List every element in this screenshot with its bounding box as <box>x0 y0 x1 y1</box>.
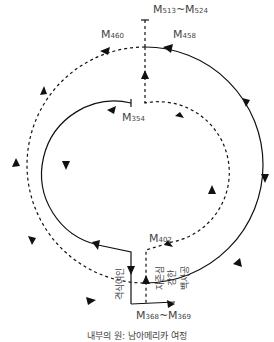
label-m402: M402 <box>149 233 172 244</box>
vertical-text-left: 격식여인 <box>113 268 126 300</box>
outer-right-solid-arc <box>145 47 263 283</box>
journey-diagram <box>0 0 274 342</box>
diagram-caption: 내부의 원: 남아메리카 여정 <box>0 329 274 342</box>
vertical-text-right-3: 백사공 <box>178 266 191 290</box>
vertical-text-right-2: 강한 <box>165 270 178 286</box>
label-m513-m524: M513~M524 <box>153 4 208 15</box>
label-m368-m369: M368~M369 <box>136 310 191 321</box>
outer-left-dashed-arc <box>27 47 145 283</box>
label-m354: M354 <box>122 112 145 123</box>
label-m460: M460 <box>101 29 124 40</box>
label-m458: M458 <box>173 29 196 40</box>
